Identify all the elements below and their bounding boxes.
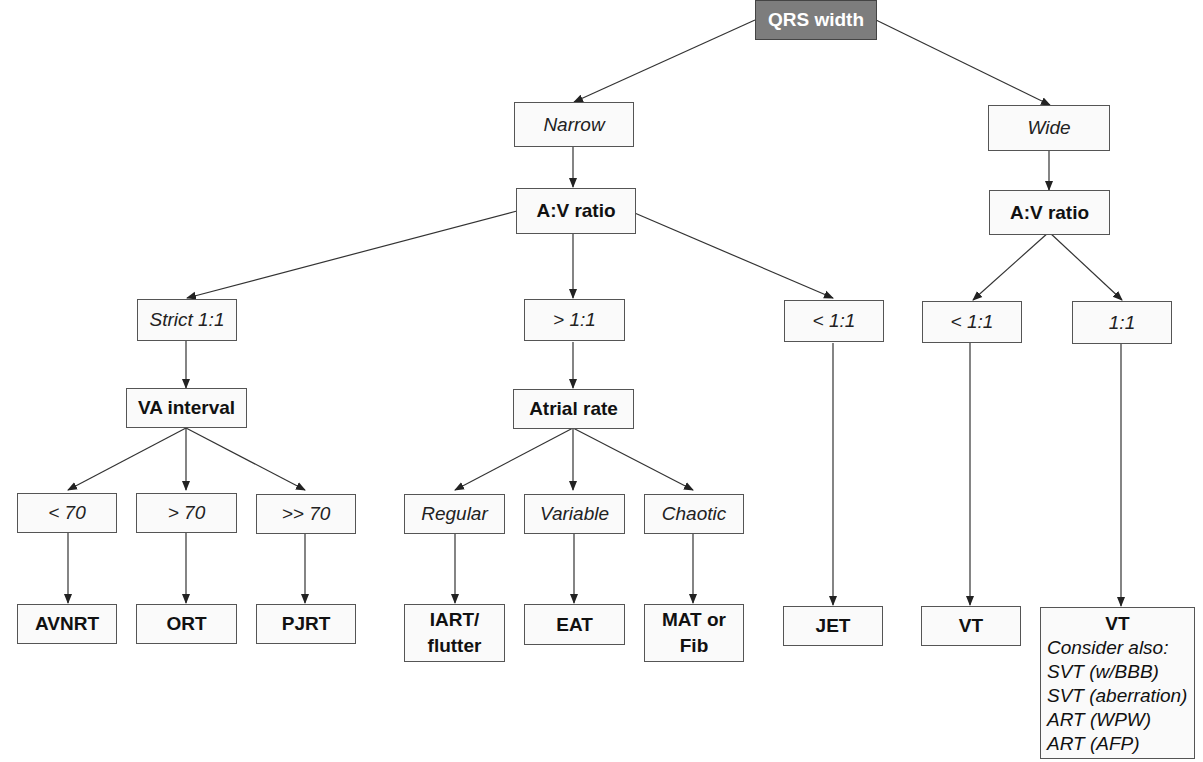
- vt-note-consider: Consider also:: [1041, 636, 1194, 660]
- jet-node: JET: [783, 606, 883, 646]
- strict-1-1-label: Strict 1:1: [150, 309, 225, 331]
- strict-1-1-node: Strict 1:1: [137, 299, 237, 341]
- edge-wav-lt: [973, 232, 1049, 300]
- mat-label-line1: MAT or: [662, 607, 726, 633]
- wide-lt-1-1-node: < 1:1: [922, 301, 1022, 343]
- iart-label-line1: IART/: [430, 607, 480, 633]
- wide-av-ratio-node: A:V ratio: [989, 190, 1110, 235]
- mat-label-line2: Fib: [680, 633, 709, 659]
- vt-note-svt-aberration: SVT (aberration): [1041, 684, 1194, 708]
- narrow-av-ratio-node: A:V ratio: [516, 188, 636, 234]
- variable-label: Variable: [540, 503, 609, 525]
- wide-lt-1-1-label: < 1:1: [951, 311, 994, 333]
- edge-root-wide: [876, 20, 1050, 105]
- eat-node: EAT: [524, 604, 625, 645]
- wide-1-1-label: 1:1: [1109, 312, 1135, 334]
- avnrt-node: AVNRT: [17, 604, 117, 644]
- wide-node: Wide: [988, 105, 1110, 151]
- va-interval-node: VA interval: [126, 388, 247, 428]
- avnrt-label: AVNRT: [35, 611, 99, 637]
- gtgt-70-node: >> 70: [256, 494, 356, 534]
- lt-70-label: < 70: [48, 502, 86, 524]
- iart-label-line2: flutter: [428, 633, 482, 659]
- regular-node: Regular: [404, 494, 505, 534]
- edge-av-strict: [187, 211, 517, 298]
- atrial-rate-label: Atrial rate: [529, 398, 618, 420]
- edge-atrial-regular: [455, 428, 573, 490]
- edge-wav-eq: [1049, 232, 1122, 300]
- variable-node: Variable: [524, 494, 625, 534]
- pjrt-label: PJRT: [282, 611, 331, 637]
- vt-note-svt-bbb: SVT (w/BBB): [1041, 660, 1194, 684]
- gt-1-1-node: > 1:1: [524, 299, 625, 341]
- mat-fib-node: MAT or Fib: [644, 604, 744, 662]
- edge-va-gtgt70: [186, 428, 305, 490]
- vt-label: VT: [959, 613, 983, 639]
- lt-70-node: < 70: [17, 493, 117, 533]
- iart-flutter-node: IART/ flutter: [404, 604, 505, 662]
- vt-note-art-afp: ART (AFP): [1041, 732, 1194, 756]
- edge-root-narrow: [574, 20, 755, 102]
- ort-node: ORT: [136, 604, 237, 644]
- va-interval-label: VA interval: [138, 397, 235, 419]
- root-label: QRS width: [768, 9, 864, 31]
- jet-label: JET: [816, 613, 851, 639]
- narrow-av-ratio-label: A:V ratio: [536, 200, 615, 222]
- ort-label: ORT: [166, 611, 206, 637]
- narrow-lt-1-1-label: < 1:1: [813, 310, 856, 332]
- wide-av-ratio-label: A:V ratio: [1010, 202, 1089, 224]
- narrow-node: Narrow: [514, 102, 634, 147]
- vt-note-art-wpw: ART (WPW): [1041, 708, 1194, 732]
- narrow-lt-1-1-node: < 1:1: [784, 300, 884, 342]
- eat-label: EAT: [556, 612, 593, 638]
- gt-70-label: > 70: [168, 502, 206, 524]
- regular-label: Regular: [421, 503, 488, 525]
- edge-av-lt: [630, 211, 833, 298]
- vt-consider-also-node: VT Consider also: SVT (w/BBB) SVT (aberr…: [1040, 607, 1195, 759]
- vt-wide-title: VT: [1105, 612, 1129, 636]
- atrial-rate-node: Atrial rate: [513, 389, 634, 429]
- narrow-label: Narrow: [543, 114, 604, 136]
- wide-label: Wide: [1027, 117, 1070, 139]
- gtgt-70-label: >> 70: [282, 503, 331, 525]
- pjrt-node: PJRT: [256, 604, 356, 644]
- gt-1-1-label: > 1:1: [553, 309, 596, 331]
- root-qrs-width-node: QRS width: [755, 0, 877, 40]
- wide-1-1-node: 1:1: [1072, 301, 1172, 344]
- vt-node: VT: [921, 606, 1021, 646]
- chaotic-node: Chaotic: [644, 494, 744, 534]
- gt-70-node: > 70: [136, 493, 237, 533]
- edge-atrial-chaotic: [573, 428, 693, 490]
- edge-va-lt70: [68, 428, 186, 490]
- chaotic-label: Chaotic: [662, 503, 726, 525]
